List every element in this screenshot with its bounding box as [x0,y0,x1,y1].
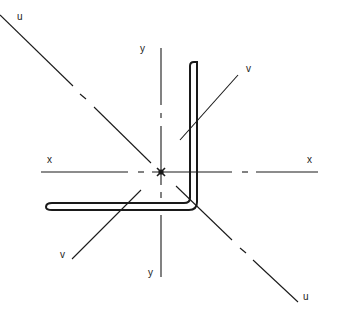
angle-section [46,62,197,210]
v-axis [72,75,238,259]
y-axis-label-top: y [140,44,145,54]
v-axis-label-top: v [246,64,251,74]
u-axis [0,15,298,302]
angle-section-diagram: x x y y u u v v [0,0,344,320]
u-axis-label-top: u [17,12,23,22]
x-axis-label-left: x [47,155,52,165]
v-axis-label-bottom: v [60,250,65,260]
y-axis-label-bottom: y [148,268,153,278]
x-axis-label-right: x [307,155,312,165]
u-axis-label-bottom: u [303,292,309,302]
